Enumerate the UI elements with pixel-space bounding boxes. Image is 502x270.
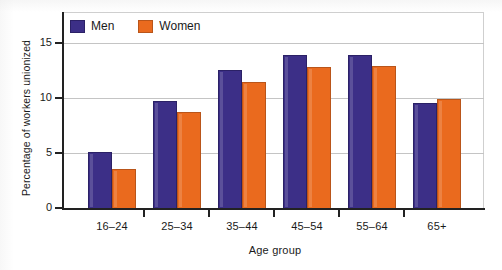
bar-highlight [309, 69, 312, 207]
bar-women-65-plus [437, 99, 461, 209]
bar-chart: Percentage of workers unionized 15 10 5 … [0, 0, 502, 270]
bar-highlight [285, 57, 288, 207]
x-tick-mark-3 [273, 210, 275, 217]
x-tick-label-45-54: 45–54 [272, 220, 342, 232]
bar-highlight [155, 103, 158, 207]
bar-men-65-plus [413, 103, 437, 209]
y-tick-label-10: 10 [22, 91, 52, 103]
bar-men-25-34 [153, 101, 177, 209]
x-tick-label-65-plus: 65+ [402, 220, 472, 232]
bar-highlight [244, 84, 247, 207]
gridline-15 [64, 43, 484, 44]
bar-men-35-44 [218, 70, 242, 209]
legend-label-women: Women [159, 19, 200, 33]
bar-highlight [374, 68, 377, 207]
bar-men-45-54 [283, 55, 307, 209]
legend-item-women: Women [138, 19, 200, 33]
x-tick-label-25-34: 25–34 [142, 220, 212, 232]
x-tick-label-16-24: 16–24 [77, 220, 147, 232]
legend-swatch-women-icon [138, 20, 153, 33]
x-tick-mark-5 [403, 210, 405, 217]
y-axis-title: Percentage of workers unionized [20, 18, 32, 218]
x-tick-mark-4 [338, 210, 340, 217]
bar-highlight [179, 114, 182, 207]
y-tick-label-0: 0 [22, 201, 52, 213]
bar-highlight [90, 154, 93, 207]
bar-highlight [220, 72, 223, 207]
bar-highlight [350, 57, 353, 207]
legend-label-men: Men [91, 19, 114, 33]
bar-women-16-24 [112, 169, 136, 209]
bar-highlight [114, 171, 117, 207]
bar-men-55-64 [348, 55, 372, 209]
x-axis-title: Age group [60, 244, 490, 256]
bar-women-55-64 [372, 66, 396, 209]
bar-highlight [439, 101, 442, 207]
legend: Men Women [70, 19, 214, 33]
gridline-10 [64, 98, 484, 99]
x-tick-label-55-64: 55–64 [337, 220, 407, 232]
bar-men-16-24 [88, 152, 112, 209]
legend-swatch-men-icon [70, 20, 85, 33]
x-tick-mark-2 [208, 210, 210, 217]
y-tick-label-15: 15 [22, 36, 52, 48]
y-axis-line [62, 12, 64, 210]
y-tick-mark-0 [55, 207, 62, 209]
bar-women-35-44 [242, 82, 266, 209]
y-tick-label-5: 5 [22, 146, 52, 158]
bar-women-45-54 [307, 67, 331, 209]
bar-women-25-34 [177, 112, 201, 209]
y-tick-mark-15 [55, 42, 62, 44]
x-tick-label-35-44: 35–44 [207, 220, 277, 232]
y-tick-mark-5 [55, 152, 62, 154]
bar-highlight [415, 105, 418, 207]
y-tick-mark-10 [55, 97, 62, 99]
legend-item-men: Men [70, 19, 114, 33]
x-tick-mark-1 [143, 210, 145, 217]
